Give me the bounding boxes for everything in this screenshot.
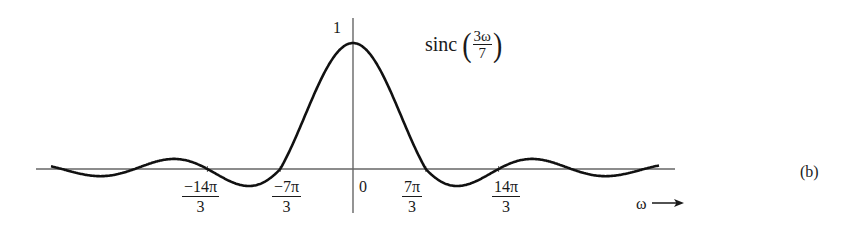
tick-numerator: 7π [402, 178, 422, 197]
tick-denominator: 3 [283, 197, 291, 215]
x-axis-label-omega: ω [636, 196, 647, 212]
x-tick-label-7pi-3: 7π 3 [402, 178, 422, 215]
tick-numerator: 14π [492, 178, 520, 197]
title-fraction: 3ω 7 [473, 28, 492, 61]
tick-denominator: 3 [502, 197, 510, 215]
tick-numerator: −14π [182, 178, 219, 197]
sinc-curve [51, 43, 659, 186]
figure-label: (b) [800, 164, 819, 180]
tick-denominator: 3 [408, 197, 416, 215]
x-tick-label-neg-14pi-3: −14π 3 [182, 178, 219, 215]
chart-title: sinc ( 3ω 7 ) [425, 28, 502, 61]
x-tick-label-14pi-3: 14π 3 [492, 178, 520, 215]
x-tick-label-neg-7pi-3: −7π 3 [272, 178, 301, 215]
arrow-right-icon [652, 199, 684, 207]
title-func: sinc [425, 33, 457, 56]
title-denominator: 7 [478, 45, 486, 61]
tick-numerator: −7π [272, 178, 301, 197]
tick-denominator: 3 [197, 197, 205, 215]
x-tick-label-0: 0 [359, 179, 367, 195]
y-tick-label-1: 1 [333, 20, 341, 36]
title-numerator: 3ω [473, 28, 492, 45]
close-paren: ) [493, 28, 502, 62]
open-paren: ( [462, 28, 471, 62]
